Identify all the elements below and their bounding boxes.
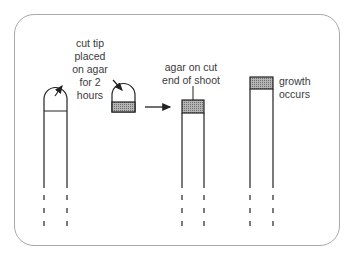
label-agar-on-cut: agar on cut end of shoot [150, 61, 232, 87]
label-line: end of shoot [150, 74, 232, 87]
label-line: hours [68, 89, 112, 102]
label-cut-tip: cut tip placed on agar for 2 hours [68, 37, 112, 102]
label-line: on agar [68, 63, 112, 76]
shoot-with-agar [182, 86, 204, 226]
label-line: agar on cut [150, 61, 232, 74]
label-line: occurs [279, 88, 329, 101]
label-line: for 2 [68, 76, 112, 89]
label-line: cut tip [68, 37, 112, 50]
label-growth: growth occurs [279, 75, 329, 101]
intact-shoot [44, 86, 67, 226]
dashed-continuation [44, 195, 67, 226]
cut-tip-on-agar [112, 80, 135, 112]
diagram-canvas [0, 0, 355, 257]
shoot-grown [250, 77, 273, 226]
label-line: placed [68, 50, 112, 63]
label-line: growth [279, 75, 329, 88]
